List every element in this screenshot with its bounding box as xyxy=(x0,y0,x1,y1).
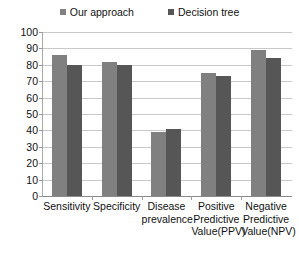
x-tick-label: NegativePredictiveValue(NPV) xyxy=(241,200,291,238)
x-axis: SensitivitySpecificityDiseaseprevalenceP… xyxy=(42,200,291,256)
y-tick-label: 70 xyxy=(4,76,38,86)
x-tick-mark xyxy=(92,196,93,200)
legend-label-decision-tree: Decision tree xyxy=(178,6,239,18)
legend-item-our-approach: Our approach xyxy=(60,6,134,18)
bar-our-approach xyxy=(201,73,216,196)
x-tick-mark xyxy=(142,196,143,200)
bar-our-approach xyxy=(251,50,266,196)
legend-label-our-approach: Our approach xyxy=(70,6,134,18)
x-tick-mark xyxy=(241,196,242,200)
x-tick-label: Specificity xyxy=(92,200,142,213)
bar-decision-tree xyxy=(166,129,181,196)
y-tick-label: 40 xyxy=(4,125,38,135)
bar-group xyxy=(142,32,192,196)
bar-our-approach xyxy=(52,55,67,196)
bar-decision-tree xyxy=(117,65,132,196)
x-tick-label: Sensitivity xyxy=(42,200,92,213)
bar-our-approach xyxy=(151,132,166,196)
bar-group xyxy=(191,32,241,196)
x-tick-mark xyxy=(191,196,192,200)
x-tick-label: Diseaseprevalence xyxy=(142,200,192,225)
y-tick-label: 50 xyxy=(4,109,38,119)
legend-item-decision-tree: Decision tree xyxy=(168,6,239,18)
y-tick-label: 10 xyxy=(4,175,38,185)
y-tick-label: 100 xyxy=(4,27,38,37)
x-tick-label: PositivePredictiveValue(PPV) xyxy=(191,200,241,238)
y-axis: 1009080706050403020100 xyxy=(0,32,38,196)
y-tick-label: 0 xyxy=(4,191,38,201)
bar-our-approach xyxy=(102,62,117,196)
legend-swatch-icon xyxy=(168,9,174,15)
bar-decision-tree xyxy=(216,76,231,196)
bar-group xyxy=(42,32,92,196)
y-tick-mark xyxy=(39,196,43,197)
bar-decision-tree xyxy=(67,65,82,196)
y-tick-label: 90 xyxy=(4,43,38,53)
bar-decision-tree xyxy=(266,58,281,196)
bar-group xyxy=(92,32,142,196)
chart-legend: Our approach Decision tree xyxy=(0,6,299,18)
y-tick-label: 20 xyxy=(4,158,38,168)
gridline xyxy=(43,196,292,197)
bars-layer xyxy=(42,32,291,196)
bar-group xyxy=(241,32,291,196)
y-tick-label: 80 xyxy=(4,60,38,70)
y-tick-label: 60 xyxy=(4,93,38,103)
legend-swatch-icon xyxy=(60,9,66,15)
y-tick-label: 30 xyxy=(4,142,38,152)
bar-chart: Our approach Decision tree 1009080706050… xyxy=(0,0,299,258)
